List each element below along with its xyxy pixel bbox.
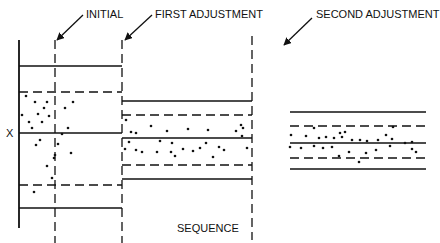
data-point <box>235 130 238 133</box>
data-point <box>171 142 174 145</box>
data-point <box>33 191 36 194</box>
data-point <box>392 126 395 129</box>
data-point <box>322 147 325 150</box>
data-point <box>318 137 321 140</box>
data-point <box>125 119 128 122</box>
sequence-axis-label: SEQUENCE <box>177 222 239 234</box>
data-point <box>333 137 336 140</box>
data-point <box>51 177 54 180</box>
chart-layer <box>19 36 426 243</box>
data-point <box>411 141 414 144</box>
data-point <box>170 151 173 154</box>
data-point <box>389 145 392 148</box>
data-point <box>48 115 51 118</box>
data-point <box>130 131 133 134</box>
data-point <box>289 146 292 149</box>
data-point <box>212 156 215 159</box>
data-point <box>35 144 38 147</box>
data-point <box>404 142 407 145</box>
data-point <box>70 152 73 155</box>
data-point <box>124 148 127 151</box>
data-point <box>67 127 70 130</box>
data-point <box>313 127 316 130</box>
initial-arrow-icon <box>57 15 83 40</box>
data-point <box>46 101 49 104</box>
control-chart-diagram: INITIAL FIRST ADJUSTMENT SECOND ADJUSTME… <box>0 0 440 243</box>
data-point <box>223 149 226 152</box>
data-point <box>54 154 57 157</box>
data-point <box>344 131 347 134</box>
data-point <box>41 121 44 124</box>
data-point <box>375 149 378 152</box>
data-point <box>313 145 316 148</box>
data-point <box>207 129 210 132</box>
data-point <box>57 143 60 146</box>
data-point <box>358 161 361 164</box>
data-point <box>174 155 177 158</box>
data-point <box>339 132 342 135</box>
data-point <box>391 138 394 141</box>
data-point <box>31 127 34 130</box>
x-axis-label: X <box>6 127 14 139</box>
data-point <box>61 133 64 136</box>
data-point <box>240 124 243 127</box>
first-arrow-icon <box>125 15 152 40</box>
data-point <box>46 165 49 168</box>
data-point <box>39 139 42 142</box>
data-point <box>300 147 303 150</box>
data-point <box>37 113 40 116</box>
data-point <box>359 139 362 142</box>
data-point <box>415 151 418 154</box>
data-point <box>72 101 75 104</box>
data-point <box>341 136 344 139</box>
second-adjustment-label: SECOND ADJUSTMENT <box>316 8 440 20</box>
data-point <box>135 149 138 152</box>
data-point <box>365 152 368 155</box>
data-point <box>351 139 354 142</box>
data-point <box>156 151 159 154</box>
data-point <box>242 127 245 130</box>
data-point <box>150 125 153 128</box>
initial-label: INITIAL <box>86 8 123 20</box>
data-point <box>159 140 162 143</box>
second-arrow-icon <box>284 18 312 45</box>
data-point <box>25 95 28 98</box>
data-point <box>348 151 351 154</box>
data-point <box>199 147 202 150</box>
data-point <box>182 148 185 151</box>
data-point <box>141 151 144 154</box>
data-point <box>385 134 388 137</box>
data-point <box>192 150 195 153</box>
data-point <box>187 128 190 131</box>
data-point <box>305 135 308 138</box>
data-point <box>21 114 24 117</box>
data-point <box>128 141 131 144</box>
data-point <box>246 147 249 150</box>
data-point <box>64 107 67 110</box>
data-point <box>53 157 56 160</box>
data-point <box>218 146 221 149</box>
data-point <box>205 142 208 145</box>
data-point <box>135 132 138 135</box>
data-point <box>290 134 293 137</box>
data-point <box>34 101 37 104</box>
data-point <box>43 107 46 110</box>
data-point <box>331 146 334 149</box>
data-point <box>325 136 328 139</box>
data-point <box>366 140 369 143</box>
data-point <box>377 139 380 142</box>
data-point <box>411 148 414 151</box>
data-point <box>338 155 341 158</box>
data-point <box>241 135 244 138</box>
data-point <box>166 130 169 133</box>
first-adjustment-label: FIRST ADJUSTMENT <box>155 8 263 20</box>
data-point <box>28 121 31 124</box>
